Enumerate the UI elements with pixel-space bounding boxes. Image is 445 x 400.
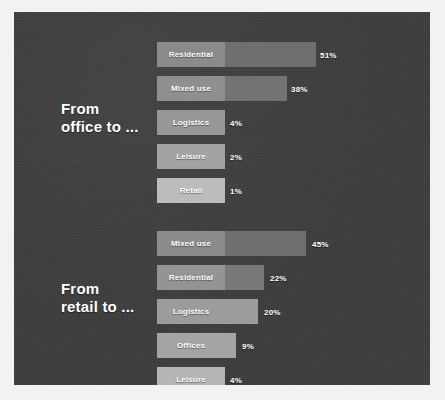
slide-canvas: From office to ... From retail to ... Re… xyxy=(0,0,445,400)
chart-panel: From office to ... From retail to ... Re… xyxy=(14,12,430,385)
bar-segment-leisure: Leisure xyxy=(157,144,225,169)
bar-category-label: Mixed use xyxy=(171,239,211,248)
bar-extension-mixed-use xyxy=(225,231,306,256)
bar-category-label: Leisure xyxy=(176,375,206,384)
bar-category-label: Retail xyxy=(180,186,203,195)
bar-segment-offices: Offices xyxy=(157,333,225,358)
bar-row: Retail xyxy=(157,178,225,203)
bar-value-label: 9% xyxy=(242,341,254,350)
bar-row: Logistics xyxy=(157,299,258,324)
bar-row: Leisure xyxy=(157,367,225,385)
bar-segment-retail: Retail xyxy=(157,178,225,203)
bar-extension-mixed-use xyxy=(225,76,287,101)
bar-value-label: 1% xyxy=(230,186,242,195)
bar-value-label: 22% xyxy=(270,273,287,282)
bar-row: Residential xyxy=(157,265,264,290)
bar-category-label: Offices xyxy=(177,341,205,350)
bar-value-label: 38% xyxy=(291,84,308,93)
bar-category-label: Leisure xyxy=(176,152,206,161)
bar-category-label: Logistics xyxy=(173,118,209,127)
bar-row: Leisure xyxy=(157,144,225,169)
group-label-retail: From retail to ... xyxy=(61,280,134,316)
bar-extension-offices xyxy=(225,333,236,358)
bar-extension-residential xyxy=(225,265,264,290)
bar-extension-residential xyxy=(225,42,316,67)
bar-segment-mixed-use: Mixed use xyxy=(157,231,225,256)
bar-value-label: 51% xyxy=(320,50,337,59)
bar-segment-leisure: Leisure xyxy=(157,367,225,385)
group-label-office: From office to ... xyxy=(61,100,139,136)
bar-category-label: Residential xyxy=(169,50,213,59)
bar-value-label: 45% xyxy=(312,239,329,248)
bar-value-label: 2% xyxy=(230,152,242,161)
bar-segment-residential: Residential xyxy=(157,42,225,67)
bar-value-label: 4% xyxy=(230,118,242,127)
bar-row: Offices xyxy=(157,333,236,358)
bar-row: Mixed use xyxy=(157,231,306,256)
bar-segment-logistics: Logistics xyxy=(157,299,225,324)
bar-row: Mixed use xyxy=(157,76,287,101)
bar-segment-logistics: Logistics xyxy=(157,110,225,135)
bar-value-label: 4% xyxy=(230,375,242,384)
bar-row: Logistics xyxy=(157,110,225,135)
bar-category-label: Residential xyxy=(169,273,213,282)
bar-row: Residential xyxy=(157,42,316,67)
bar-extension-logistics xyxy=(225,299,258,324)
bar-value-label: 20% xyxy=(264,307,281,316)
bar-segment-residential: Residential xyxy=(157,265,225,290)
bar-category-label: Logistics xyxy=(173,307,209,316)
bar-segment-mixed-use: Mixed use xyxy=(157,76,225,101)
bar-category-label: Mixed use xyxy=(171,84,211,93)
